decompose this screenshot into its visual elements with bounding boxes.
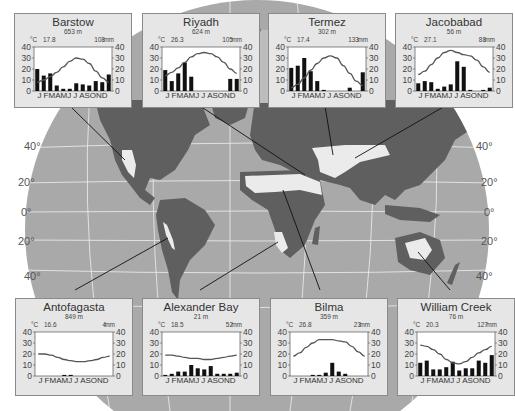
lat-label-left-20s: 20° — [18, 235, 35, 247]
y-tick-right: 40 — [243, 329, 253, 337]
precip-unit: mm — [231, 321, 242, 328]
climograph-bilma: Bilma359 m°C26.823mm001010202030304040J … — [270, 298, 388, 396]
y-tick-right: 30 — [496, 53, 506, 63]
y-tick-right: 0 — [371, 371, 376, 381]
lat-label-left-0: 0° — [21, 206, 32, 218]
precip-bar — [100, 82, 104, 91]
y-tick-right: 10 — [369, 75, 379, 85]
temp-unit: °C — [411, 36, 418, 43]
climograph-riyadh: Riyadh624 m°C26.3105mm001010202030304040… — [142, 13, 260, 108]
y-tick-left: 30 — [23, 338, 33, 348]
station-elevation: 56 m — [396, 28, 512, 36]
station-elevation: 302 m — [269, 28, 385, 36]
y-tick-right: 0 — [369, 86, 374, 96]
precip-bar — [416, 83, 420, 91]
precip-bar — [455, 61, 459, 91]
y-tick-right: 30 — [369, 53, 379, 63]
precip-bar — [189, 365, 193, 376]
precip-bar — [176, 73, 180, 91]
precip-unit: mm — [103, 36, 114, 43]
station-summary: °C26.823mm — [271, 321, 387, 329]
station-name: Alexander Bay — [143, 301, 259, 313]
climograph-william-creek: William Creek76 m°C20.3127mm001010202030… — [397, 298, 515, 396]
y-tick-left: 20 — [278, 349, 288, 359]
y-tick-right: 10 — [371, 360, 381, 370]
precip-bar — [196, 368, 200, 376]
precip-bar — [183, 62, 187, 91]
y-tick-left: 0 — [154, 86, 159, 96]
y-tick-left: 0 — [409, 371, 414, 381]
y-tick-left: 0 — [26, 86, 31, 96]
y-tick-left: 0 — [27, 371, 32, 381]
y-tick-right: 20 — [369, 64, 379, 74]
precip-bar — [464, 368, 468, 376]
y-tick-right: 30 — [498, 338, 508, 348]
temp-unit: °C — [31, 321, 38, 328]
y-tick-left: 10 — [276, 75, 286, 85]
month-axis-labels: J FMAMJ J ASOND — [142, 376, 259, 385]
precip-bar — [81, 84, 85, 91]
y-tick-left: 40 — [278, 329, 288, 337]
climograph-barstow: Barstow653 m°C17.8108mm00101020203030404… — [14, 13, 132, 108]
y-tick-left: 40 — [150, 44, 160, 52]
lat-label-left-40n: 40° — [24, 140, 41, 152]
y-tick-left: 0 — [280, 86, 285, 96]
precip-unit: mm — [359, 321, 370, 328]
y-tick-left: 0 — [282, 371, 287, 381]
lat-label-right-40s: 40° — [476, 270, 493, 282]
y-tick-left: 0 — [154, 371, 159, 381]
y-tick-left: 20 — [405, 349, 415, 359]
y-tick-left: 20 — [23, 349, 33, 359]
y-tick-left: 30 — [22, 53, 32, 63]
y-tick-left: 10 — [278, 360, 288, 370]
station-summary: °C27.188mm — [396, 36, 512, 44]
plot-area — [162, 332, 240, 376]
y-tick-right: 40 — [116, 329, 126, 337]
y-tick-left: 30 — [150, 338, 160, 348]
y-tick-left: 10 — [150, 360, 160, 370]
lat-label-right-0: 0° — [484, 206, 495, 218]
station-name: William Creek — [398, 301, 514, 313]
plot-area — [290, 332, 368, 376]
month-axis-labels: J FMAMJ J ASOND — [270, 376, 387, 385]
y-tick-left: 40 — [150, 329, 160, 337]
station-elevation: 624 m — [143, 28, 259, 36]
station-name: Riyadh — [143, 16, 259, 28]
precip-unit: mm — [484, 36, 495, 43]
lat-label-left-40s: 40° — [24, 270, 41, 282]
y-tick-right: 0 — [243, 371, 248, 381]
precip-unit: mm — [231, 36, 242, 43]
y-tick-right: 20 — [116, 349, 126, 359]
precip-bar — [235, 79, 239, 91]
climograph-alexander-bay: Alexander Bay21 m°C18.552mm0010102020303… — [142, 298, 260, 396]
precip-bar — [35, 69, 39, 91]
station-summary: °C20.3127mm — [398, 321, 514, 329]
station-elevation: 21 m — [143, 313, 259, 321]
mean-temperature: 17.4 — [297, 36, 310, 43]
station-elevation: 76 m — [398, 313, 514, 321]
precip-bar — [330, 363, 334, 376]
precip-bar — [483, 363, 487, 376]
month-axis-labels: J FMAMJ J ASOND — [268, 91, 385, 100]
y-tick-right: 0 — [496, 86, 501, 96]
precip-unit: mm — [486, 321, 497, 328]
precip-bar — [425, 361, 429, 376]
precip-bar — [94, 81, 98, 91]
precip-bar — [431, 369, 435, 376]
y-tick-left: 30 — [405, 338, 415, 348]
precip-bar — [42, 76, 46, 91]
y-tick-left: 10 — [150, 75, 160, 85]
precip-unit: mm — [104, 321, 115, 328]
precip-bar — [423, 81, 427, 91]
station-name: Barstow — [15, 16, 131, 28]
precip-bar — [296, 66, 300, 91]
temp-unit: °C — [284, 36, 291, 43]
temp-unit: °C — [158, 321, 165, 328]
y-tick-right: 40 — [371, 329, 381, 337]
precip-bar — [309, 71, 313, 91]
precip-bar — [418, 363, 422, 376]
y-tick-right: 20 — [243, 64, 253, 74]
y-tick-left: 10 — [405, 360, 415, 370]
y-tick-right: 40 — [243, 44, 253, 52]
y-tick-left: 40 — [22, 44, 32, 52]
